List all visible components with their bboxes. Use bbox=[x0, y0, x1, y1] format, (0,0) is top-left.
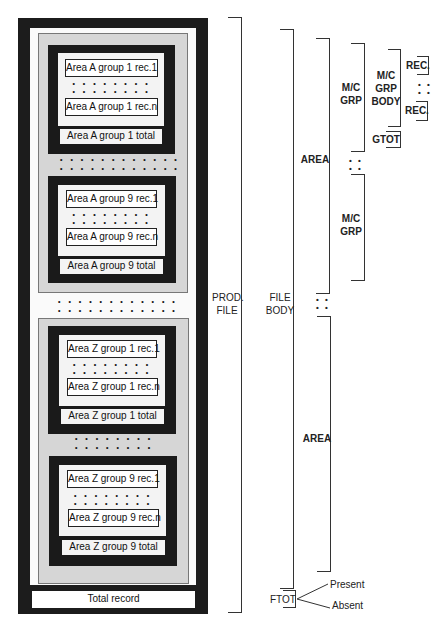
ftot-branch-lines bbox=[0, 0, 448, 637]
ftot-present-label: Present bbox=[330, 578, 364, 591]
ftot-absent-label: Absent bbox=[332, 599, 363, 612]
